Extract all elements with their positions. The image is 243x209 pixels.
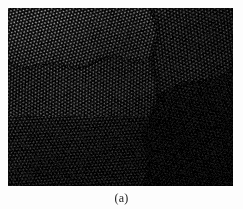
atomic-lattice-image: [8, 8, 233, 186]
figure-caption: (a): [0, 190, 243, 206]
figure-container: (a): [0, 0, 243, 209]
micrograph-panel: [8, 8, 233, 186]
